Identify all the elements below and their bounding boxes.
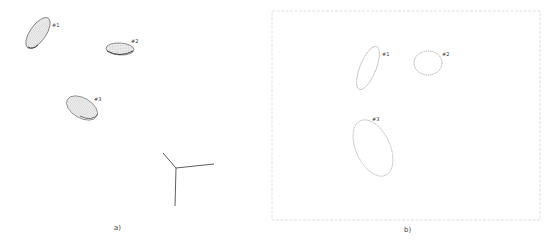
axis-line-1 [163, 153, 176, 168]
panel-b-caption: b) [404, 226, 411, 234]
ellipsoid-3d-view: #1 #2 #3 [0, 0, 250, 244]
ellipsoid-3: #3 [62, 91, 101, 125]
axis-line-2 [176, 164, 214, 168]
ellipse-1-label: #1 [382, 51, 389, 57]
panel-b-2d-ellipses: #1 #2 #3 b) [260, 0, 559, 244]
ellipse-2-label: #2 [442, 51, 449, 57]
panel-a-caption: a) [114, 224, 121, 232]
panel-a-3d-ellipsoids: #1 #2 #3 a) [0, 0, 250, 244]
ellipsoid-3-label: #3 [94, 96, 101, 102]
ellipse-1: #1 [352, 44, 389, 93]
plot-frame [272, 11, 540, 220]
ellipsoid-1: #1 [21, 14, 59, 53]
ellipse-3: #3 [345, 114, 401, 183]
coordinate-axes [163, 153, 214, 206]
ellipse-2: #2 [414, 51, 449, 75]
ellipsoid-2: #2 [106, 38, 139, 56]
ellipse-3-label: #3 [372, 116, 379, 122]
ellipse-2d-view: #1 #2 #3 [260, 0, 559, 244]
ellipsoid-2-label: #2 [131, 38, 138, 44]
axis-line-3 [175, 168, 176, 206]
ellipsoid-1-label: #1 [52, 22, 59, 28]
